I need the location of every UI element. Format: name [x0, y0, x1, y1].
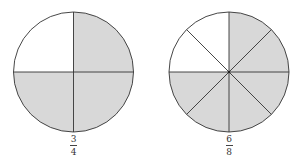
numerator: 6: [226, 134, 232, 144]
denominator: 8: [226, 147, 232, 157]
shaded-quarter-top-right: [74, 12, 134, 72]
center-dot: [228, 71, 231, 74]
fraction-label-three-quarters: 3 4: [64, 135, 84, 157]
shaded-quarter-bottom-right: [74, 72, 134, 132]
fraction-bar: [70, 145, 77, 146]
shaded-quarter-bottom-left: [14, 72, 74, 132]
circle-six-eighths: [169, 12, 289, 132]
fraction-bar: [226, 145, 233, 146]
fraction-label-six-eighths: 6 8: [219, 135, 239, 157]
circle-three-quarters: [14, 12, 134, 132]
denominator: 4: [71, 147, 77, 157]
fraction-circles-diagram: [0, 0, 299, 164]
numerator: 3: [71, 134, 77, 144]
